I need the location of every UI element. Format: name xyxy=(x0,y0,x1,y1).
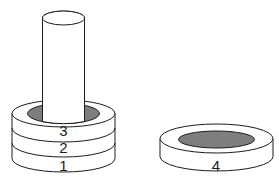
stacking-rings-diagram: 3 2 1 4 xyxy=(0,0,279,178)
loose-ring-hole xyxy=(179,131,255,148)
ring-2-label: 2 xyxy=(59,139,67,156)
peg xyxy=(43,11,85,123)
stacking-rings-figure: 3 2 1 4 xyxy=(0,0,279,178)
loose-ring: 4 xyxy=(160,124,273,174)
peg-top-face xyxy=(43,11,85,25)
ring-tower: 3 2 1 xyxy=(12,11,115,174)
ring-1-label: 1 xyxy=(59,157,67,174)
ring-3-label: 3 xyxy=(59,122,67,139)
ring-4-label: 4 xyxy=(212,157,220,174)
